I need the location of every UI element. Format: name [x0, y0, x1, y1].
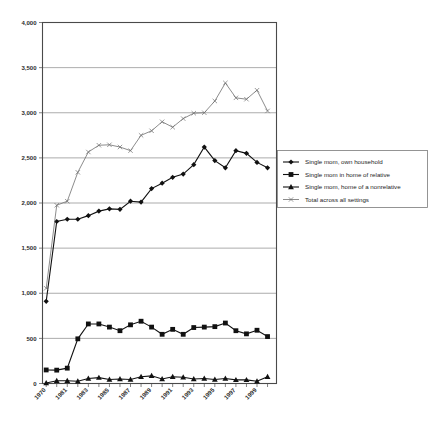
- x-axis-tick-label: 1995: [202, 387, 216, 401]
- data-point-marker-diamond: [265, 165, 270, 170]
- data-point-marker-x: [223, 81, 227, 85]
- data-point-marker-x: [213, 99, 217, 103]
- data-point-marker-diamond: [170, 175, 175, 180]
- data-point-marker-x: [255, 88, 259, 92]
- x-axis-tick-label: 1981: [54, 387, 68, 401]
- series-layer: [43, 81, 270, 385]
- x-axis-tick-label: 1997: [223, 387, 237, 401]
- series-1: [44, 144, 271, 304]
- data-point-marker-square: [128, 322, 133, 327]
- x-axis-tick-label: 1993: [181, 387, 195, 401]
- x-axis-tick-label: 1983: [75, 387, 89, 401]
- data-point-marker-x: [139, 133, 143, 137]
- y-axis-tick-label: 1,500: [21, 245, 37, 251]
- y-axis-tick-label: 3,500: [21, 65, 37, 71]
- data-point-marker-square: [75, 336, 80, 341]
- x-axis-tick-label: 1991: [160, 387, 174, 401]
- data-point-marker-square: [54, 368, 59, 373]
- y-axis-tick-label: 4,000: [21, 20, 37, 26]
- data-point-marker-diamond: [44, 299, 49, 304]
- y-axis-tick-label: 1,000: [21, 290, 37, 296]
- data-point-marker-square: [191, 325, 196, 330]
- data-point-marker-square: [65, 366, 70, 371]
- legend-item-label: Single mom in home of relative: [305, 171, 391, 178]
- data-point-marker-triangle: [149, 373, 155, 378]
- data-point-marker-x: [86, 150, 90, 154]
- data-point-marker-diamond: [160, 181, 165, 186]
- data-point-marker-x: [160, 120, 164, 124]
- y-axis-tick-label: 2,000: [21, 200, 37, 206]
- data-point-marker-triangle: [96, 375, 102, 380]
- data-point-marker-square: [139, 319, 144, 324]
- data-point-marker-x: [76, 170, 80, 174]
- y-axis-tick-label: 500: [26, 336, 37, 342]
- data-point-marker-x: [170, 125, 174, 129]
- data-point-marker-diamond: [65, 217, 70, 222]
- y-axis-tick-labels: 4,0003,5003,0002,5002,0001,5001,0005000: [21, 20, 37, 387]
- legend: Single mom, own householdSingle mom in h…: [278, 151, 428, 208]
- data-point-marker-diamond: [107, 206, 112, 211]
- data-point-marker-square: [265, 334, 270, 339]
- data-point-marker-square: [44, 368, 49, 373]
- x-axis-tick-label: 1985: [96, 387, 110, 401]
- y-axis-tick-label: 0: [33, 381, 37, 387]
- data-point-marker-x: [181, 116, 185, 120]
- data-point-marker-diamond: [86, 213, 91, 218]
- x-axis-tick-label: 1987: [118, 387, 132, 401]
- data-point-marker-diamond: [75, 217, 80, 222]
- data-point-marker-x: [149, 129, 153, 133]
- legend-item-label: Total across all settings: [305, 196, 369, 203]
- data-point-marker-square: [170, 327, 175, 332]
- legend-item-label: Single mom, own household: [305, 158, 383, 165]
- gridlines: [43, 68, 277, 339]
- legend-item-label: Single mom, home of a nonrelative: [305, 183, 401, 190]
- x-axis-tick-label: 1999: [244, 387, 258, 401]
- data-point-marker-square: [244, 331, 249, 336]
- data-point-marker-square: [107, 325, 112, 330]
- series-2: [44, 319, 270, 373]
- data-point-marker-triangle: [222, 376, 228, 381]
- x-axis-tick-label: 1989: [139, 387, 153, 401]
- line-chart-canvas: 4,0003,5003,0002,5002,0001,5001,0005000 …: [0, 0, 440, 422]
- data-point-marker-square: [149, 325, 154, 330]
- data-point-marker-square: [118, 328, 123, 333]
- data-point-marker-square: [96, 322, 101, 327]
- data-point-marker-square: [86, 322, 91, 327]
- data-point-marker-diamond: [96, 209, 101, 214]
- chart-figure: 4,0003,5003,0002,5002,0001,5001,0005000 …: [0, 0, 440, 422]
- series-line: [46, 147, 267, 301]
- data-point-marker-square: [202, 325, 207, 330]
- data-point-marker-square: [212, 324, 217, 329]
- x-axis-tick-label: 1970: [33, 387, 47, 401]
- y-axis-tick-label: 2,500: [21, 155, 37, 161]
- data-point-marker-triangle: [265, 374, 271, 379]
- data-point-marker-square: [234, 328, 239, 333]
- data-point-marker-square: [255, 328, 260, 333]
- y-axis-tick-label: 3,000: [21, 110, 37, 116]
- x-axis-tick-labels: 1970198119831985198719891991199319951997…: [33, 387, 258, 401]
- data-point-marker-square: [160, 332, 165, 337]
- data-point-marker-diamond: [233, 148, 238, 153]
- data-point-marker-square: [223, 321, 228, 326]
- data-point-marker-x: [128, 148, 132, 152]
- data-point-marker-square: [181, 332, 186, 337]
- data-point-marker-square: [289, 172, 294, 177]
